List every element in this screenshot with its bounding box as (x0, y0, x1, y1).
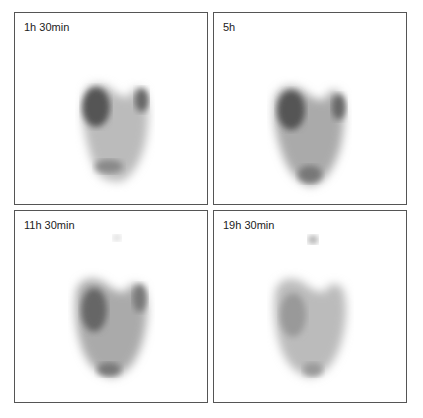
thyroid-scan-image (214, 211, 406, 402)
thyroid-scan-image (15, 13, 207, 204)
thyroid-scan-image (15, 211, 207, 402)
thyroid-scan-image (214, 13, 406, 204)
scan-panel-3: 11h 30min (14, 210, 208, 403)
scan-panel-4: 19h 30min (213, 210, 407, 403)
scan-panel-2: 5h (213, 12, 407, 205)
scan-panel-1: 1h 30min (14, 12, 208, 205)
